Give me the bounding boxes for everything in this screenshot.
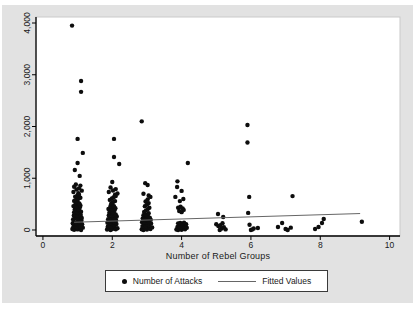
legend-label-attacks: Number of Attacks — [133, 276, 202, 286]
svg-text:10: 10 — [385, 240, 395, 250]
svg-text:8: 8 — [318, 240, 323, 250]
svg-text:2,000: 2,000 — [22, 116, 32, 138]
svg-text:3,000: 3,000 — [22, 64, 32, 86]
legend-label-fitted: Fitted Values — [262, 276, 311, 286]
svg-text:4: 4 — [179, 240, 184, 250]
legend-item-fitted: Fitted Values — [218, 276, 311, 286]
legend-item-attacks: Number of Attacks — [122, 276, 202, 286]
x-axis-title: Number of Rebel Groups — [36, 251, 400, 261]
legend: Number of Attacks Fitted Values — [105, 270, 328, 292]
y-axis-ticks: 01,0002,0003,0004,000 — [22, 12, 36, 232]
svg-text:6: 6 — [249, 240, 254, 250]
svg-text:2: 2 — [110, 240, 115, 250]
svg-text:0: 0 — [41, 240, 46, 250]
scatter-marker-icon — [122, 279, 127, 284]
svg-text:0: 0 — [22, 227, 32, 232]
plot-area — [36, 17, 400, 236]
chart-canvas: 024681001,0002,0003,0004,000 — [0, 0, 415, 313]
chart-page: 024681001,0002,0003,0004,000 Number of R… — [0, 0, 415, 313]
svg-text:1,000: 1,000 — [22, 167, 32, 189]
svg-text:4,000: 4,000 — [22, 12, 32, 34]
line-marker-icon — [218, 281, 256, 282]
x-axis-ticks: 0246810 — [41, 236, 395, 250]
